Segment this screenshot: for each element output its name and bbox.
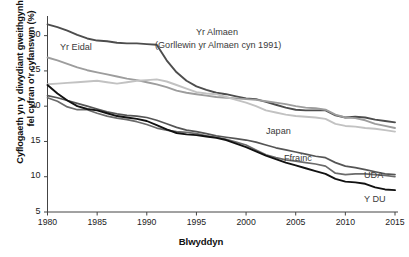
annotation-yr-almaen: Yr Almaen [196,27,238,37]
y-tick-label: 25 [19,64,41,74]
x-axis-title: Blwyddyn [0,236,402,247]
y-tick-label: 10 [19,170,41,180]
series-line-japan [48,79,396,131]
x-tick-label: 1990 [127,217,167,227]
annotation-japan: Japan [266,126,291,136]
annotation-y-du: Y DU [364,194,386,204]
annotation-gorllewin-yr-almaen-cyn-1991: (Gorllewin yr Almaen cyn 1991) [155,40,281,50]
annotation-ffrainc: Ffrainc [284,153,312,163]
x-tick-label: 1995 [176,217,216,227]
series-line-ffrainc [48,96,396,175]
x-tick-label: 2015 [375,217,409,227]
annotation-uda: UDA [364,170,383,180]
y-tick-label: 15 [19,135,41,145]
x-tick-label: 2010 [325,217,365,227]
x-tick-label: 2000 [226,217,266,227]
y-tick-label: 5 [19,206,41,216]
y-tick-label: 20 [19,100,41,110]
y-tick-label: 30 [19,29,41,39]
x-tick-label: 1980 [28,217,68,227]
x-tick-label: 1985 [77,217,117,227]
x-tick-label: 2005 [276,217,316,227]
annotation-yr-eidal: Yr Eidal [60,42,92,52]
